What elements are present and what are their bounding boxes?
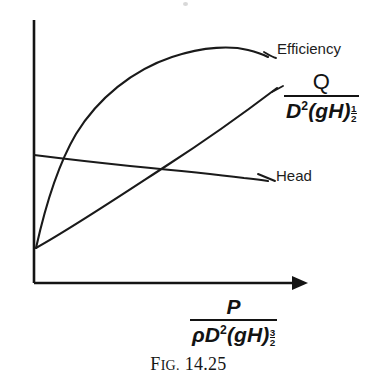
x-axis-label-fraction: P ρD2(gH)32 — [190, 296, 277, 347]
y-axis-den-base: D — [286, 99, 301, 122]
y-axis-den-paren: (gH) — [308, 99, 350, 122]
caption-figure-number: 14.25 — [185, 354, 227, 374]
flow-coefficient-leader-line — [272, 86, 283, 92]
x-axis-denominator: ρD2(gH)32 — [190, 321, 277, 347]
efficiency-curve — [36, 48, 268, 248]
x-axis-exponent-three-halves: 32 — [270, 328, 276, 347]
y-axis-exponent-half: 12 — [351, 104, 357, 123]
x-axis-den-rho: ρ — [192, 323, 205, 346]
y-axis-numerator: Q — [309, 71, 334, 95]
y-axis-label-fraction: Q D2(gH)12 — [284, 71, 359, 123]
pump-performance-plot — [0, 0, 377, 384]
x-axis-den-superscript: 2 — [220, 323, 227, 337]
caption-fig-smallcaps: IG. — [161, 357, 180, 373]
x-axis-numerator: P — [223, 296, 245, 319]
x-axis-den-base: D — [205, 323, 220, 346]
efficiency-label: Efficiency — [277, 41, 341, 56]
x-axis-arrowhead — [292, 276, 308, 290]
y-axis-exponent-numerator: 1 — [351, 104, 357, 113]
x-axis-exponent-denominator: 2 — [270, 338, 276, 347]
figure-container: Efficiency Head Q D2(gH)12 P ρD2(gH)32 F… — [0, 0, 377, 384]
figure-caption: FIG. 14.25 — [0, 354, 377, 375]
caption-fig-prefix: F — [150, 354, 160, 374]
y-axis-exponent-denominator: 2 — [351, 114, 357, 123]
head-label: Head — [276, 168, 312, 183]
x-axis-exponent-numerator: 3 — [270, 328, 276, 337]
x-axis-den-paren: (gH) — [227, 323, 269, 346]
head-curve — [34, 155, 268, 181]
y-axis-denominator: D2(gH)12 — [284, 97, 359, 123]
